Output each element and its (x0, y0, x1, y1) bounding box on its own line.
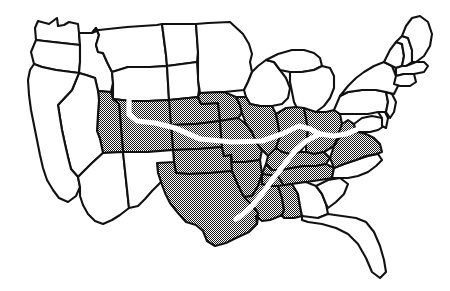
state-minnesota (196, 22, 252, 93)
us-map-figure (0, 0, 450, 291)
state-new-jersey (386, 92, 396, 118)
state-connecticut-rhode-island (394, 74, 416, 86)
us-map-svg (0, 0, 450, 291)
state-wyoming (112, 66, 169, 101)
state-new-york (340, 62, 398, 96)
state-north-dakota (162, 24, 198, 66)
state-florida (302, 214, 386, 278)
states-layer (28, 16, 432, 278)
state-south-dakota (167, 62, 199, 100)
state-vermont (384, 42, 404, 68)
